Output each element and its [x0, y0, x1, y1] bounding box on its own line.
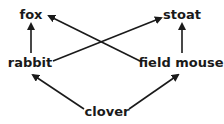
arrow-clover-to-rabbit — [33, 75, 84, 109]
node-stoat: stoat — [163, 7, 201, 22]
arrow-field-mouse-to-fox — [49, 16, 140, 61]
food-web-diagram: fox stoat rabbit field mouse clover — [0, 0, 224, 124]
node-fox: fox — [20, 7, 44, 22]
arrow-clover-to-field-mouse — [129, 75, 178, 109]
node-rabbit: rabbit — [8, 55, 52, 70]
node-field-mouse: field mouse — [138, 55, 223, 70]
node-clover: clover — [85, 104, 130, 119]
